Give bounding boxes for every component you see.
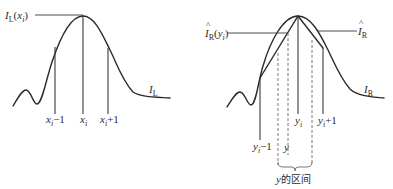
right-panel: IR(yi) ^ IR ^ IR yi−1 y yi yi+1 y的区间 <box>204 16 384 185</box>
interval-brace <box>278 162 312 171</box>
left-intensity-curve <box>13 16 170 106</box>
right-tick-label-yi-plus-1: yi+1 <box>317 114 337 129</box>
left-tick-label-xi-minus-1: xi−1 <box>45 113 65 128</box>
left-tick-label-xi-plus-1: xi+1 <box>99 113 119 128</box>
right-tick-label-yi-minus-1: yi−1 <box>252 140 272 155</box>
right-tick-label-y: y <box>283 141 289 153</box>
right-tick-label-yi: yi <box>294 114 302 129</box>
right-interp-hat: ^ <box>359 18 364 28</box>
left-curve-label: IL <box>148 83 158 98</box>
left-peak-label: IL(xi) <box>4 9 28 24</box>
diagram-canvas: IL(xi) IL xi−1 xi xi+1 IR(yi) ^ IR ^ IR … <box>0 0 393 189</box>
left-tick-label-xi: xi <box>79 113 87 128</box>
right-peak-hat: ^ <box>206 20 211 30</box>
interval-label: y的区间 <box>275 173 311 185</box>
left-panel: IL(xi) IL xi−1 xi xi+1 <box>4 9 170 128</box>
